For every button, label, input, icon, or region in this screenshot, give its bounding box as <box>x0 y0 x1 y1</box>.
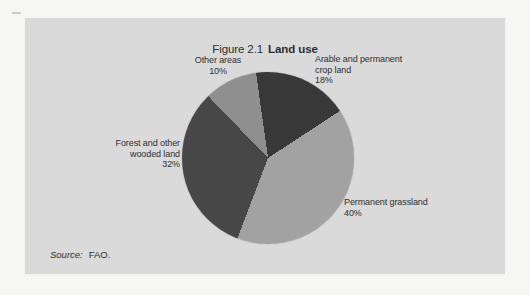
slice-label-text: wooded land <box>80 149 180 160</box>
slice-percent: 10% <box>170 66 266 77</box>
slice-label-arable-crop-land: Arable and permanent crop land 18% <box>315 54 402 86</box>
slice-label-text: crop land <box>315 65 402 76</box>
slice-label-permanent-grassland: Permanent grassland 40% <box>344 197 428 218</box>
scan-artifact-mark <box>12 12 21 14</box>
figure-panel: Figure 2.1Land use Other areas 10% Arabl… <box>25 18 505 274</box>
figure-number: Figure 2.1 <box>212 43 263 55</box>
scanned-page: Figure 2.1Land use Other areas 10% Arabl… <box>0 0 530 295</box>
source-value: FAO. <box>89 249 111 260</box>
slice-label-text: Forest and other <box>80 138 180 149</box>
source-label: Source: <box>50 249 83 260</box>
source-line: Source:FAO. <box>50 249 110 260</box>
pie-chart <box>182 72 354 244</box>
slice-label-text: Arable and permanent <box>315 54 402 65</box>
slice-label-forest-wooded-land: Forest and other wooded land 32% <box>80 138 180 170</box>
slice-percent: 40% <box>344 208 428 219</box>
figure-title: Figure 2.1Land use <box>25 43 505 55</box>
slice-label-text: Permanent grassland <box>344 197 428 208</box>
slice-percent: 18% <box>315 75 402 86</box>
slice-label-other-areas: Other areas 10% <box>170 55 266 76</box>
slice-label-text: Other areas <box>170 55 266 66</box>
slice-percent: 32% <box>80 159 180 170</box>
figure-title-text: Land use <box>268 43 318 55</box>
